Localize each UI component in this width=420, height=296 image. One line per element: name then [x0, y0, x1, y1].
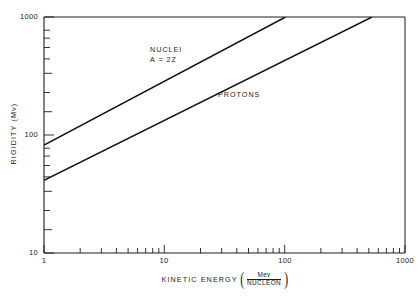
curve-protons [44, 17, 372, 180]
annotation-nuclei-line1: NUCLEI [150, 45, 182, 55]
x-axis-title: KINETIC ENERGY ( Mev NUCLEON ) [44, 272, 406, 287]
fraction-denominator: NUCLEON [247, 280, 281, 287]
x-axis-title-text: KINETIC ENERGY [162, 275, 238, 284]
data-curves [44, 17, 372, 180]
annotation-protons: PROTONS [218, 90, 260, 100]
x-axis-ticks [44, 245, 405, 253]
curve-nuclei [44, 17, 286, 145]
plot-canvas [0, 0, 420, 296]
y-axis-title: RIGIDITY (Mv) [10, 94, 17, 174]
right-paren-glyph: ) [284, 272, 288, 287]
x-tick-label-1: 1 [34, 257, 54, 265]
x-axis-unit-fraction: Mev NUCLEON [247, 272, 281, 287]
y-axis-ticks [44, 17, 54, 253]
left-paren-glyph: ( [240, 272, 244, 287]
axis-frame [44, 17, 405, 253]
annotation-nuclei-line2: A = 2Z [150, 55, 182, 65]
y-tick-label-10: 10 [6, 249, 38, 257]
x-tick-label-10: 10 [154, 257, 174, 265]
x-tick-label-100: 100 [273, 257, 297, 265]
y-tick-label-1000: 1000 [6, 13, 38, 21]
annotation-nuclei: NUCLEI A = 2Z [150, 45, 182, 64]
x-tick-label-1000: 1000 [393, 257, 417, 265]
chart-figure: 1000 100 10 1 10 100 1000 RIGIDITY (Mv) … [0, 0, 420, 296]
fraction-numerator: Mev [257, 272, 270, 279]
